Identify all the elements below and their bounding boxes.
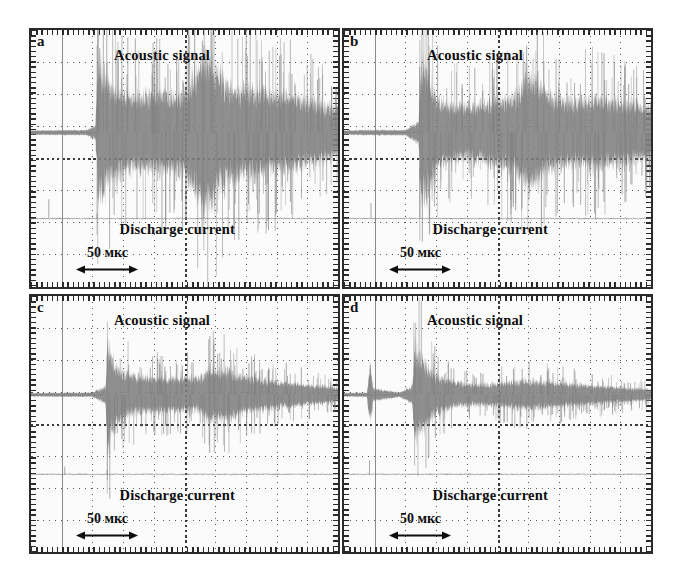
panel-letter-c: c: [37, 300, 44, 315]
scale-bar-d: 50 мкс: [382, 511, 458, 541]
discharge-current-label-d: Discharge current: [433, 487, 548, 504]
panel-b: b Acoustic signal Discharge current 50 м…: [342, 28, 653, 289]
scale-bar-b: 50 мкс: [382, 245, 458, 275]
scale-bar-label-a: 50 мкс: [87, 245, 128, 261]
scale-bar-label-c: 50 мкс: [87, 511, 128, 527]
scale-bar-label-d: 50 мкс: [400, 511, 441, 527]
double-arrow-icon: [389, 530, 451, 541]
acoustic-signal-label-b: Acoustic signal: [427, 47, 523, 64]
discharge-trace-d: [344, 473, 651, 474]
panel-letter-d: d: [350, 300, 358, 315]
panel-letter-a: a: [37, 34, 45, 49]
discharge-trace-c: [31, 473, 338, 474]
discharge-trace-a: [31, 218, 338, 219]
scale-bar-c: 50 мкс: [69, 511, 145, 541]
panel-a: a Acoustic signal Discharge current 50 м…: [29, 28, 340, 289]
discharge-trace-b: [344, 218, 651, 219]
discharge-current-label-c: Discharge current: [120, 487, 235, 504]
acoustic-signal-label-d: Acoustic signal: [427, 312, 523, 329]
acoustic-signal-label-c: Acoustic signal: [114, 312, 210, 329]
panel-letter-b: b: [350, 34, 358, 49]
oscilloscope-figure: a Acoustic signal Discharge current 50 м…: [0, 0, 677, 585]
scale-bar-label-b: 50 мкс: [400, 245, 441, 261]
double-arrow-icon: [76, 530, 138, 541]
panel-c: c Acoustic signal Discharge current 50 м…: [29, 294, 340, 555]
discharge-current-label-b: Discharge current: [433, 221, 548, 238]
panel-grid: a Acoustic signal Discharge current 50 м…: [29, 28, 653, 554]
discharge-current-label-a: Discharge current: [120, 221, 235, 238]
acoustic-trace-d: [344, 337, 651, 448]
double-arrow-icon: [389, 264, 451, 275]
acoustic-signal-label-a: Acoustic signal: [114, 47, 210, 64]
double-arrow-icon: [76, 264, 138, 275]
scale-bar-a: 50 мкс: [69, 245, 145, 275]
panel-d: d Acoustic signal Discharge current 50 м…: [342, 294, 653, 555]
acoustic-trace-c: [31, 336, 338, 458]
